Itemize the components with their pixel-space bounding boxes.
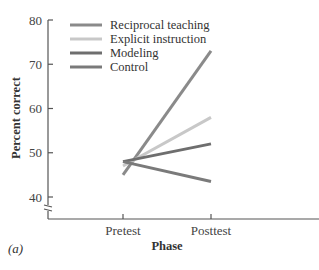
legend-label: Modeling [110, 46, 159, 60]
y-tick-label: 40 [29, 190, 42, 205]
y-tick-label: 80 [29, 13, 42, 28]
legend: Reciprocal teachingExplicit instructionM… [70, 18, 210, 74]
series-line [123, 162, 211, 182]
legend-label: Control [110, 60, 149, 74]
x-tick-label: Posttest [191, 223, 232, 238]
y-tick-label: 50 [29, 145, 42, 160]
panel-label: (a) [8, 241, 23, 256]
legend-label: Reciprocal teaching [110, 18, 210, 32]
line-chart: 4050607080 PretestPosttest Percent corre… [0, 0, 319, 270]
y-tick-label: 70 [29, 57, 42, 72]
x-axis-title: Phase [151, 239, 183, 253]
legend-label: Explicit instruction [110, 32, 207, 46]
y-tick-label: 60 [29, 101, 42, 116]
y-axis: 4050607080 [29, 13, 53, 220]
x-axis: PretestPosttest [48, 214, 319, 238]
series-line [123, 144, 211, 162]
y-axis-title: Percent correct [9, 76, 23, 159]
x-tick-label: Pretest [105, 223, 141, 238]
